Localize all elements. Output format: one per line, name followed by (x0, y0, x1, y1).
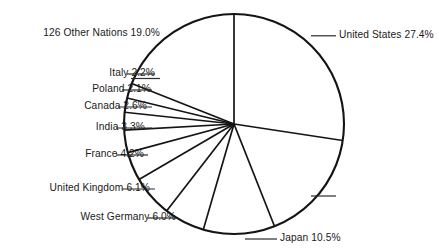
slice-label-japan: Japan 10.5% (280, 232, 341, 244)
slice-label-canada: Canada 2.6% (0, 100, 147, 112)
pie-chart-figure: 126 Other Nations 19.0% United States 27… (0, 0, 439, 252)
slice-label-other-nations: 126 Other Nations 19.0% (0, 27, 160, 39)
slice-label-poland: Poland 2.1% (0, 83, 151, 95)
slice-label-west-germany: West Germany 6.0% (0, 211, 176, 223)
slice-label-india: India 3.3% (0, 121, 145, 133)
slice-label-france: France 4.2% (0, 148, 144, 160)
slice-label-united-states: United States 27.4% (339, 29, 434, 41)
slice-label-united-kingdom: United Kingdom 6.1% (0, 182, 150, 194)
slice-label-italy: Italy 2.2% (0, 67, 155, 79)
